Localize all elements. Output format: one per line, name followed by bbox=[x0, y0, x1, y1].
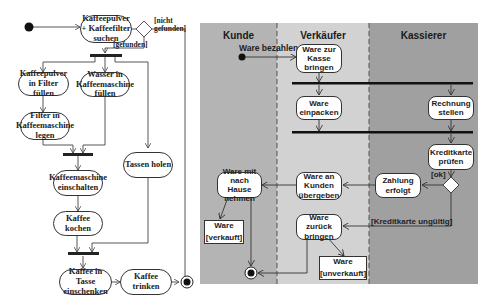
action-check-credit-card: Kreditkarte prüfen bbox=[428, 144, 474, 170]
object-goods-sold: Ware [verkauft] bbox=[204, 220, 244, 244]
object-goods-unsold: Ware [unverkauft] bbox=[319, 256, 367, 280]
fork-bar-top bbox=[292, 82, 473, 85]
join-bar-bottom bbox=[292, 131, 473, 134]
action-pack-goods: Ware einpacken bbox=[296, 96, 342, 120]
object-name: Ware bbox=[333, 256, 352, 268]
object-state: [verkauft] bbox=[206, 232, 242, 244]
action-bring-to-register: Ware zur Kasse bringen bbox=[296, 44, 342, 73]
start-label-pay: Ware bezahlen bbox=[239, 43, 298, 53]
decision-diamond bbox=[443, 177, 459, 193]
action-create-invoice: Rechnung stellen bbox=[428, 96, 474, 120]
action-return-goods: Ware zurück bringen bbox=[296, 214, 342, 240]
action-hand-over-goods: Ware an Kunden übergeben bbox=[296, 172, 342, 200]
guard-ok: [ok] bbox=[431, 170, 446, 179]
object-name: Ware bbox=[214, 220, 233, 232]
guard-card-invalid: [Kreditkarte ungültig] bbox=[371, 217, 452, 226]
initial-node bbox=[239, 54, 246, 61]
object-state: [unverkauft] bbox=[320, 268, 366, 280]
action-take-goods-home: Ware mit nach Hause nehmen bbox=[217, 172, 262, 198]
action-payment-done: Zahlung erfolgt bbox=[375, 173, 421, 198]
